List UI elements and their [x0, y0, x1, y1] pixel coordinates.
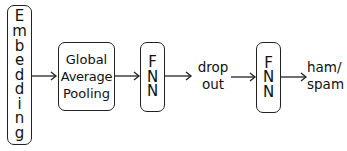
- label-line: spam: [307, 76, 347, 93]
- label-line: drop: [193, 59, 233, 76]
- arrow-dropout-to-fnn: [231, 73, 255, 81]
- edges-layer: [0, 0, 347, 151]
- label-line: ham/: [307, 59, 347, 76]
- pooling-label: Global Average Pooling: [61, 51, 112, 102]
- letter: g: [15, 126, 25, 141]
- global-average-pooling-node: Global Average Pooling: [58, 42, 115, 111]
- fnn-label: F N N: [147, 55, 158, 99]
- arrow-pooling-to-fnn: [115, 72, 139, 80]
- label-line: Global: [61, 51, 112, 68]
- label-line: Average: [61, 68, 112, 85]
- fnn-node-1: F N N: [140, 42, 165, 112]
- arrow-fnn-to-output: [281, 73, 306, 81]
- letter: N: [147, 84, 158, 99]
- arrow-embedding-to-pooling: [31, 72, 56, 80]
- dropout-label: drop out: [193, 59, 233, 93]
- label-line: out: [193, 76, 233, 93]
- label-line: Pooling: [61, 85, 112, 102]
- output-label: ham/ spam: [307, 59, 347, 93]
- letter: N: [263, 85, 274, 100]
- embedding-node: E m b e d d i n g: [7, 5, 32, 145]
- fnn-node-2: F N N: [256, 42, 281, 113]
- fnn-label: F N N: [263, 56, 274, 100]
- arrow-fnn-to-dropout: [165, 72, 191, 80]
- embedding-label: E m b e d d i n g: [12, 9, 27, 140]
